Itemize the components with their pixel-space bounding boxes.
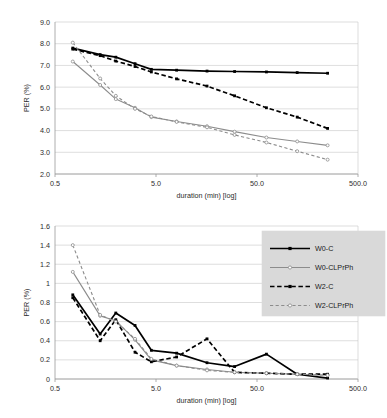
data-point-w2-clprph	[233, 133, 236, 136]
data-point-w0-c	[71, 293, 74, 296]
y-tick-label: 8.0	[40, 39, 50, 48]
data-point-w2-clprph	[150, 115, 153, 118]
y-tick-label: 1	[46, 279, 50, 288]
data-point-w2-clprph	[265, 141, 268, 144]
data-point-w0-c	[265, 353, 268, 356]
y-tick-label: 0.6	[40, 317, 50, 326]
data-point-w2-c	[99, 54, 102, 57]
data-point-w0-clprph	[114, 98, 117, 101]
legend-label-w0-c[interactable]: W0-C	[315, 244, 333, 253]
x-axis-title: duration (min) [log]	[177, 396, 237, 405]
bottom-chart: 00.20.40.60.811.21.41.60.55.050.0500.0du…	[0, 209, 387, 418]
data-point-w2-clprph	[233, 371, 236, 374]
data-point-w2-clprph	[206, 369, 209, 372]
data-point-w0-clprph	[233, 130, 236, 133]
data-point-w2-c	[114, 60, 117, 63]
data-point-w2-clprph	[99, 313, 102, 316]
figure-container: 2.03.04.05.06.07.08.09.00.55.050.0500.0d…	[0, 0, 387, 418]
x-tick-label: 50.0	[250, 179, 264, 188]
y-tick-label: 0.4	[40, 336, 50, 345]
x-tick-label: 5.0	[151, 384, 161, 393]
y-tick-label: 5.0	[40, 104, 50, 113]
y-tick-label: 9.0	[40, 18, 50, 27]
x-axis-title: duration (min) [log]	[177, 191, 237, 200]
data-point-w0-clprph	[296, 140, 299, 143]
data-point-w0-c	[265, 71, 268, 74]
data-point-w0-c	[326, 72, 329, 75]
legend-marker-w0-clprph	[288, 266, 291, 269]
data-point-w0-c	[150, 349, 153, 352]
data-point-w2-clprph	[150, 357, 153, 360]
data-point-w2-clprph	[71, 244, 74, 247]
data-point-w0-c	[296, 71, 299, 74]
y-tick-label: 7.0	[40, 61, 50, 70]
data-point-w2-clprph	[134, 337, 137, 340]
y-tick-label: 0.2	[40, 355, 50, 364]
x-tick-label: 5.0	[151, 179, 161, 188]
y-tick-label: 6.0	[40, 83, 50, 92]
data-point-w2-clprph	[296, 150, 299, 153]
data-point-w0-clprph	[326, 144, 329, 147]
legend-label-w2-clprph[interactable]: W2-CLPrPh	[315, 301, 353, 310]
data-point-w2-c	[233, 94, 236, 97]
data-point-w2-c	[296, 116, 299, 119]
data-point-w2-clprph	[206, 126, 209, 129]
data-point-w0-c	[175, 69, 178, 72]
y-tick-label: 0	[46, 375, 50, 384]
data-point-w2-c	[71, 48, 74, 51]
data-point-w2-clprph	[114, 320, 117, 323]
data-point-w2-c	[175, 77, 178, 80]
data-point-w2-clprph	[326, 374, 329, 377]
legend-marker-w2-c	[288, 285, 291, 288]
data-point-w0-clprph	[265, 136, 268, 139]
data-point-w0-clprph	[71, 270, 74, 273]
y-tick-label: 1.2	[40, 260, 50, 269]
data-point-w2-clprph	[99, 77, 102, 80]
data-point-w2-c	[206, 337, 209, 340]
data-point-w0-c	[206, 70, 209, 73]
data-point-w0-c	[233, 365, 236, 368]
legend-label-w2-c[interactable]: W2-C	[315, 282, 333, 291]
data-point-w0-clprph	[99, 83, 102, 86]
data-point-w2-c	[175, 356, 178, 359]
legend-label-w0-clprph[interactable]: W0-CLPrPh	[315, 263, 353, 272]
x-tick-label: 0.5	[50, 179, 60, 188]
y-tick-label: 4.0	[40, 126, 50, 135]
data-point-w2-c	[150, 71, 153, 74]
y-axis-title: PER (%)	[22, 289, 31, 317]
bottom-chart-canvas: 00.20.40.60.811.21.41.60.55.050.0500.0du…	[0, 209, 387, 418]
top-chart: 2.03.04.05.06.07.08.09.00.55.050.0500.0d…	[0, 0, 387, 209]
x-tick-label: 500.0	[349, 384, 367, 393]
y-tick-label: 1.6	[40, 222, 50, 231]
bottom-chart-svg: 00.20.40.60.811.21.41.60.55.050.0500.0du…	[0, 209, 387, 418]
data-point-w2-clprph	[296, 373, 299, 376]
data-point-w0-c	[175, 352, 178, 355]
x-tick-label: 50.0	[250, 384, 264, 393]
data-point-w2-clprph	[71, 41, 74, 44]
y-tick-label: 0.8	[40, 298, 50, 307]
legend-marker-w2-clprph	[288, 304, 291, 307]
data-point-w2-clprph	[175, 364, 178, 367]
data-point-w0-clprph	[71, 60, 74, 63]
data-point-w2-c	[206, 85, 209, 88]
data-point-w0-c	[206, 361, 209, 364]
data-point-w2-c	[71, 296, 74, 299]
top-chart-svg: 2.03.04.05.06.07.08.09.00.55.050.0500.0d…	[0, 0, 387, 209]
x-tick-label: 500.0	[349, 179, 367, 188]
y-axis-title: PER (%)	[22, 84, 31, 112]
data-point-w0-c	[134, 324, 137, 327]
data-point-w0-c	[99, 333, 102, 336]
legend-marker-w0-c	[288, 247, 291, 250]
data-point-w2-c	[134, 351, 137, 354]
data-point-w2-c	[265, 106, 268, 109]
data-point-w0-c	[233, 70, 236, 73]
data-point-w0-c	[150, 68, 153, 71]
data-point-w2-clprph	[134, 107, 137, 110]
y-tick-label: 1.4	[40, 241, 50, 250]
series-line-w0-c	[73, 48, 328, 73]
data-point-w2-clprph	[265, 372, 268, 375]
data-point-w2-clprph	[175, 120, 178, 123]
data-point-w2-clprph	[326, 158, 329, 161]
y-tick-label: 2.0	[40, 170, 50, 179]
y-tick-label: 3.0	[40, 148, 50, 157]
